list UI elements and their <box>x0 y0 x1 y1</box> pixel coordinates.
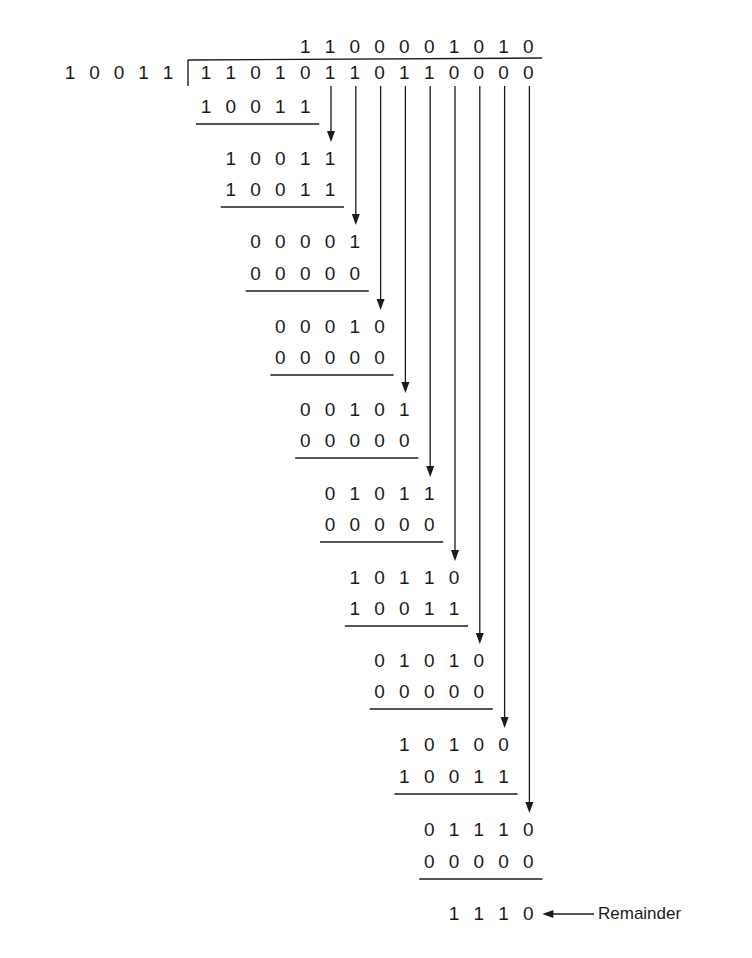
subtrahend-digit: 0 <box>370 514 390 536</box>
partial-remainder-digit: 0 <box>370 650 390 672</box>
subtrahend-digit: 0 <box>295 430 315 452</box>
dividend-digit: 0 <box>469 62 489 84</box>
partial-remainder-digit: 0 <box>370 399 390 421</box>
subtrahend-digit: 0 <box>246 96 266 118</box>
subtrahend-digit: 0 <box>221 96 241 118</box>
dividend-digit: 0 <box>518 62 538 84</box>
quotient-digit: 0 <box>518 36 538 58</box>
subtrahend-digit: 0 <box>270 179 290 201</box>
subtrahend-digit: 0 <box>295 263 315 285</box>
partial-remainder-digit: 1 <box>494 819 514 841</box>
subtrahend-digit: 0 <box>419 851 439 873</box>
quotient-digit: 1 <box>295 36 315 58</box>
partial-remainder-digit: 1 <box>444 734 464 756</box>
partial-remainder-digit: 0 <box>419 819 439 841</box>
subtrahend-digit: 0 <box>370 347 390 369</box>
subtrahend-digit: 0 <box>246 179 266 201</box>
partial-remainder-digit: 0 <box>370 483 390 505</box>
dividend-digit: 0 <box>494 62 514 84</box>
subtrahend-digit: 0 <box>394 681 414 703</box>
partial-remainder-digit: 1 <box>345 399 365 421</box>
subtrahend-digit: 0 <box>320 514 340 536</box>
partial-remainder-digit: 0 <box>246 231 266 253</box>
subtrahend-digit: 0 <box>345 263 365 285</box>
arrowhead-left-icon <box>542 910 553 918</box>
remainder-digit: 0 <box>518 903 538 925</box>
partial-remainder-digit: 1 <box>394 483 414 505</box>
remainder-digit: 1 <box>444 903 464 925</box>
partial-remainder-digit: 0 <box>295 316 315 338</box>
subtrahend-digit: 0 <box>345 430 365 452</box>
subtrahend-digit: 0 <box>370 681 390 703</box>
partial-remainder-digit: 0 <box>370 316 390 338</box>
partial-remainder-digit: 1 <box>419 567 439 589</box>
subtrahend-digit: 0 <box>444 681 464 703</box>
quotient-digit: 0 <box>370 36 390 58</box>
subtrahend-digit: 1 <box>394 766 414 788</box>
partial-remainder-digit: 1 <box>444 819 464 841</box>
arrowhead-icon <box>401 382 409 393</box>
division-lines <box>0 0 752 958</box>
partial-remainder-digit: 0 <box>518 819 538 841</box>
partial-remainder-digit: 0 <box>270 148 290 170</box>
subtrahend-digit: 0 <box>419 681 439 703</box>
partial-remainder-digit: 0 <box>419 650 439 672</box>
partial-remainder-digit: 0 <box>320 231 340 253</box>
dividend-digit: 1 <box>320 62 340 84</box>
divisor-digit: 1 <box>158 62 178 84</box>
partial-remainder-digit: 1 <box>394 650 414 672</box>
subtrahend-digit: 0 <box>345 347 365 369</box>
partial-remainder-digit: 0 <box>270 316 290 338</box>
subtrahend-digit: 0 <box>394 430 414 452</box>
arrowhead-icon <box>327 131 335 142</box>
partial-remainder-digit: 1 <box>345 567 365 589</box>
dividend-digit: 0 <box>246 62 266 84</box>
arrowhead-icon <box>476 633 484 644</box>
arrowhead-icon <box>525 802 533 813</box>
quotient-digit: 1 <box>444 36 464 58</box>
partial-remainder-digit: 1 <box>419 483 439 505</box>
division-diagram: 1001111000010101101011011000010011100111… <box>0 0 752 958</box>
subtrahend-digit: 0 <box>394 514 414 536</box>
subtrahend-digit: 0 <box>419 514 439 536</box>
partial-remainder-digit: 1 <box>320 148 340 170</box>
partial-remainder-digit: 0 <box>270 231 290 253</box>
dividend-digit: 1 <box>419 62 439 84</box>
partial-remainder-digit: 0 <box>419 734 439 756</box>
partial-remainder-digit: 0 <box>469 650 489 672</box>
partial-remainder-digit: 0 <box>444 567 464 589</box>
partial-remainder-digit: 0 <box>469 734 489 756</box>
dividend-digit: 1 <box>345 62 365 84</box>
partial-remainder-digit: 1 <box>221 148 241 170</box>
subtrahend-digit: 0 <box>320 347 340 369</box>
partial-remainder-digit: 0 <box>494 734 514 756</box>
partial-remainder-digit: 1 <box>345 231 365 253</box>
arrowhead-icon <box>451 550 459 561</box>
remainder-label: Remainder <box>598 903 681 925</box>
quotient-digit: 0 <box>394 36 414 58</box>
partial-remainder-digit: 0 <box>246 148 266 170</box>
subtrahend-digit: 0 <box>320 263 340 285</box>
quotient-digit: 0 <box>469 36 489 58</box>
subtrahend-digit: 1 <box>345 598 365 620</box>
arrowhead-icon <box>501 717 509 728</box>
dividend-digit: 0 <box>444 62 464 84</box>
partial-remainder-digit: 0 <box>320 316 340 338</box>
arrowhead-icon <box>377 299 385 310</box>
quotient-digit: 1 <box>320 36 340 58</box>
quotient-digit: 0 <box>419 36 439 58</box>
subtrahend-digit: 0 <box>295 347 315 369</box>
subtrahend-digit: 0 <box>444 766 464 788</box>
partial-remainder-digit: 0 <box>295 231 315 253</box>
subtrahend-digit: 0 <box>370 598 390 620</box>
partial-remainder-digit: 1 <box>394 399 414 421</box>
subtrahend-digit: 0 <box>394 598 414 620</box>
subtrahend-digit: 1 <box>196 96 216 118</box>
partial-remainder-digit: 1 <box>295 148 315 170</box>
subtrahend-digit: 0 <box>320 430 340 452</box>
subtrahend-digit: 0 <box>246 263 266 285</box>
divisor-digit: 1 <box>134 62 154 84</box>
partial-remainder-digit: 1 <box>345 483 365 505</box>
partial-remainder-digit: 0 <box>295 399 315 421</box>
subtrahend-digit: 1 <box>295 96 315 118</box>
